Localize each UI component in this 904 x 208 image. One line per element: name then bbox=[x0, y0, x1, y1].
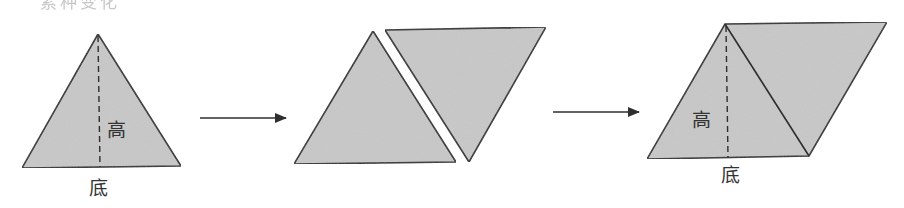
triangle-figure bbox=[22, 34, 181, 168]
parallelogram-figure bbox=[647, 22, 887, 159]
two-triangles-figure bbox=[294, 27, 546, 164]
diagram-canvas bbox=[0, 0, 904, 208]
triangle-height-label: 高 bbox=[107, 121, 126, 140]
parallelogram-height-label: 高 bbox=[692, 111, 711, 130]
parallelogram-base-label: 底 bbox=[721, 166, 740, 185]
triangle-base-label: 底 bbox=[89, 179, 108, 198]
original-triangle bbox=[22, 34, 181, 168]
